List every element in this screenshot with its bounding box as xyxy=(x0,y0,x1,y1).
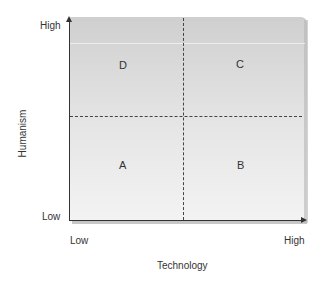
x-axis-line xyxy=(69,220,303,221)
panel-shadow-right xyxy=(304,20,308,223)
quadrant-b-label: B xyxy=(237,159,244,171)
quadrant-d-label: D xyxy=(119,59,127,71)
y-axis-title: Humanism xyxy=(17,104,28,164)
quadrant-c-label: C xyxy=(236,58,244,70)
y-axis-line xyxy=(69,20,70,221)
x-axis-low-label: Low xyxy=(70,235,88,246)
quadrant-panel xyxy=(70,17,307,222)
panel-highlight xyxy=(70,43,305,44)
y-axis-low-label: Low xyxy=(42,211,60,222)
x-axis-title: Technology xyxy=(157,260,208,271)
y-axis-arrow-icon xyxy=(66,16,72,22)
horizontal-divider xyxy=(70,116,302,117)
x-axis-high-label: High xyxy=(284,235,305,246)
quadrant-a-label: A xyxy=(119,159,126,171)
y-axis-high-label: High xyxy=(40,20,61,31)
vertical-divider xyxy=(183,18,184,220)
x-axis-arrow-icon xyxy=(301,217,307,223)
